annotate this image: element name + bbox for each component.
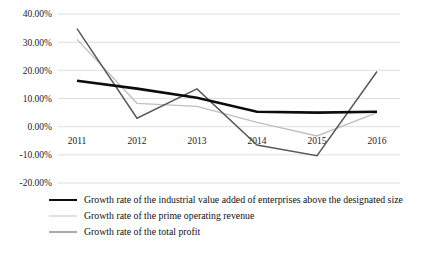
x-axis-tick-label: 2011 <box>68 136 87 146</box>
legend-item: Growth rate of the industrial value adde… <box>48 192 421 208</box>
y-axis-tick-label: 10.00% <box>23 94 52 104</box>
x-axis-tick-label: 2013 <box>188 136 207 146</box>
x-axis-tick-labels: 201120122013201420152016 <box>68 136 387 146</box>
y-axis-tick-label: 40.00% <box>23 9 52 19</box>
x-axis-tick-label: 2015 <box>308 136 327 146</box>
y-axis-tick-label: 30.00% <box>23 38 52 48</box>
legend-line-icon <box>48 194 78 206</box>
y-axis-tick-label: 0.00% <box>27 122 52 132</box>
line-chart: 40.00%30.00%20.00%10.00%0.00%-10.00%-20.… <box>0 0 421 254</box>
legend-item-label: Growth rate of the prime operating reven… <box>78 210 254 222</box>
y-axis-tick-label: -20.00% <box>20 178 53 188</box>
legend-item: Growth rate of the prime operating reven… <box>48 208 421 224</box>
chart-legend: Growth rate of the industrial value adde… <box>48 192 421 240</box>
legend-item: Growth rate of the total profit <box>48 224 421 240</box>
y-axis-tick-label: -10.00% <box>20 150 53 160</box>
x-axis-tick-label: 2012 <box>128 136 147 146</box>
y-axis-tick-label: 20.00% <box>23 66 52 76</box>
legend-item-label: Growth rate of the industrial value adde… <box>78 194 403 206</box>
x-axis-tick-label: 2016 <box>368 136 387 146</box>
y-axis-tick-labels: 40.00%30.00%20.00%10.00%0.00%-10.00%-20.… <box>20 9 53 188</box>
series-line <box>77 29 377 156</box>
legend-line-icon <box>48 226 78 238</box>
gridlines-group <box>58 14 400 183</box>
legend-line-icon <box>48 210 78 222</box>
legend-item-label: Growth rate of the total profit <box>78 226 200 238</box>
series-lines-group <box>77 29 377 156</box>
